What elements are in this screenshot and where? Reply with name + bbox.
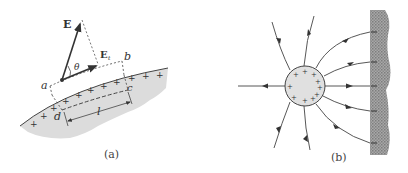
caption-a: (a) [104,148,119,161]
label-b: b [124,50,131,63]
theta-arc [68,66,71,76]
svg-text:+: + [291,94,297,102]
caption-b: (b) [331,151,347,164]
panel-a: + + + + + + + + + + + [20,18,168,161]
svg-text:+: + [40,111,48,121]
label-e: E [63,18,71,31]
label-theta: θ [74,62,80,72]
panel-b: + + + + + + + + + + (b) [238,10,391,164]
label-e-t-sub: t [108,54,111,61]
svg-text:+: + [113,77,121,87]
svg-text:+: + [142,71,150,81]
svg-text:+: + [100,81,108,91]
label-e-t: E [100,49,108,60]
label-d: d [54,110,61,123]
svg-text:+: + [302,97,308,105]
label-l: l [97,105,101,118]
label-a: a [41,79,48,92]
svg-text:+: + [62,96,70,106]
svg-text:+: + [87,85,95,95]
label-c: c [127,82,133,93]
svg-text:+: + [30,119,38,129]
svg-text:+: + [310,95,316,103]
svg-text:+: + [156,70,164,80]
svg-text:+: + [302,68,308,76]
projection-line [82,20,98,64]
origin-point [60,78,64,82]
figure-canvas: + + + + + + + + + + + [0,0,408,173]
svg-text:+: + [75,90,83,100]
svg-text:+: + [293,71,299,79]
svg-text:+: + [287,83,293,91]
